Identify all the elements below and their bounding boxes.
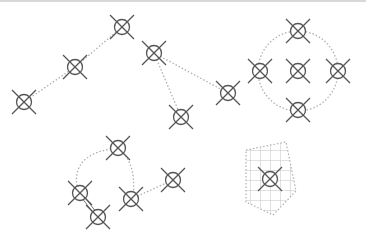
crossed-circle-node-icon[interactable] [286,59,310,83]
diagram-canvas [0,0,366,243]
crossed-circle-node-icon[interactable] [68,181,92,205]
crossed-circle-node-icon[interactable] [106,136,130,160]
edge [154,53,228,93]
edges [24,27,228,218]
crossed-circle-node-icon[interactable] [119,187,143,211]
crossed-circle-node-icon[interactable] [326,59,350,83]
crossed-circle-node-icon[interactable] [110,15,134,39]
crossed-circle-node-icon[interactable] [169,105,193,129]
crossed-circle-node-icon[interactable] [63,55,87,79]
edge [154,53,181,117]
crossed-circle-node-icon[interactable] [86,205,110,229]
crossed-circle-node-icon[interactable] [286,19,310,43]
crossed-circle-node-icon[interactable] [216,81,240,105]
crossed-circle-node-icon[interactable] [248,59,272,83]
crossed-circle-node-icon[interactable] [142,41,166,65]
edge [75,27,122,67]
nodes [12,15,350,229]
crossed-circle-node-icon[interactable] [161,168,185,192]
crossed-circle-node-icon[interactable] [12,90,36,114]
edge [24,67,75,102]
